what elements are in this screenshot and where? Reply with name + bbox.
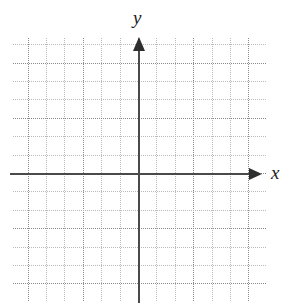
x-axis-label: x [271,163,279,182]
y-axis-label: y [133,8,141,27]
coordinate-plane-figure: x y [0,0,289,308]
axes-layer [0,0,289,308]
x-axis-arrow-icon [249,168,262,180]
y-axis-arrow-icon [133,37,145,51]
x-axis-line [10,173,249,175]
y-axis-line [138,50,140,303]
